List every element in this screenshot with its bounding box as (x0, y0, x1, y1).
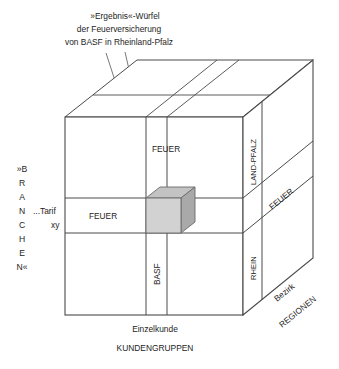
front-top-slice-label: FEUER (152, 144, 180, 154)
page-bottom-margin (0, 361, 339, 369)
right-face-label-land-pfalz: LAND-PFALZ (249, 139, 258, 185)
olap-cube-diagram: »Ergebnis«-Würfel der Feuerversicherung … (0, 0, 339, 369)
bottom-tick-label: Einzelkunde (132, 324, 178, 334)
branchen-letter-6: E (19, 248, 25, 258)
left-tick-line-2: xy (51, 220, 60, 230)
left-tick-line-1: ...Tarif (33, 206, 56, 216)
branchen-letter-5: H (19, 234, 25, 244)
front-middle-slice-label: FEUER (89, 211, 117, 221)
depth-axis-regionen: Bezirk REGIONEN (272, 281, 318, 330)
branchen-letter-7: N« (17, 262, 28, 272)
caption-line-2: der Feuerversicherung (77, 24, 162, 34)
branchen-letter-1: R (19, 178, 25, 188)
branchen-letter-3: N (19, 206, 25, 216)
result-cube[interactable] (146, 187, 195, 233)
left-tick-label: ...Tarif xy (33, 206, 60, 230)
result-cube-front (146, 198, 181, 233)
caption-line-3: von BASF in Rheinland-Pfalz (65, 37, 173, 47)
caption-line-1: »Ergebnis«-Würfel (90, 11, 159, 21)
branchen-letter-4: C (19, 220, 25, 230)
right-face-label-rhein: RHEIN (249, 256, 258, 280)
left-axis-branchen: »B R A N C H E N« (17, 164, 28, 272)
bottom-axis-kundengruppen: Einzelkunde KUNDENGRUPPEN (117, 324, 194, 353)
branchen-letter-0: »B (17, 164, 28, 174)
caption-block: »Ergebnis«-Würfel der Feuerversicherung … (65, 11, 173, 47)
front-column-label-basf: BASF (152, 263, 162, 285)
branchen-letter-2: A (19, 192, 25, 202)
bottom-axis-name: KUNDENGRUPPEN (117, 343, 194, 353)
